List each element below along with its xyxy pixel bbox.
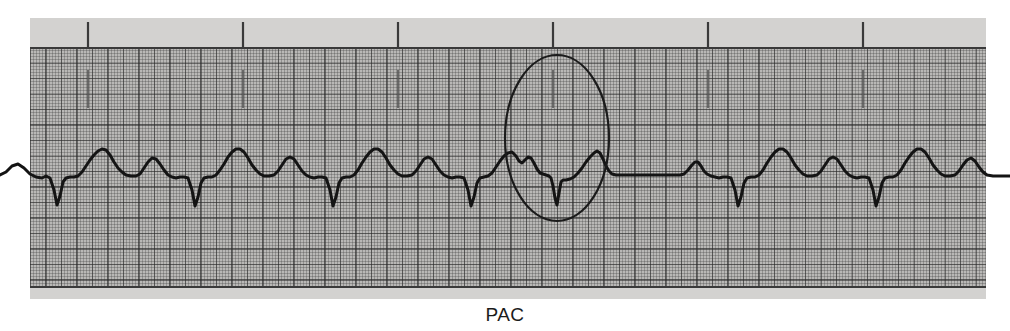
ecg-rhythm-strip-figure: PAC	[0, 0, 1010, 331]
timing-marks-group	[88, 22, 863, 108]
caption-row: PAC	[0, 299, 1010, 331]
ecg-waveform-trace	[0, 149, 1010, 206]
pac-caption-label: PAC	[485, 304, 524, 326]
ecg-trace-layer	[0, 0, 1010, 331]
